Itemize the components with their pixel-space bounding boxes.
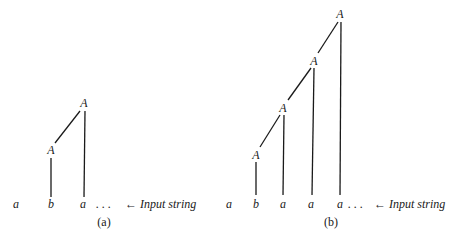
edge-b-A3-to-A4 (260, 115, 280, 147)
caption-b: (b) (324, 216, 338, 228)
leaf-a-0: a (13, 198, 19, 210)
edge-a-top-to-a (84, 111, 85, 197)
node-b-A1: A (336, 8, 343, 20)
edge-a-top-to-lowerA (55, 111, 80, 143)
edge-b-A2-to-A3 (288, 68, 311, 100)
leaf-b-1: b (253, 198, 259, 210)
edge-b-A1-to-A2 (318, 22, 338, 53)
ellipsis-a: . . . (96, 198, 111, 210)
node-a-root: A (80, 97, 87, 109)
leaf-b-4: a (337, 198, 343, 210)
edge-b-A2-to-a4 (312, 68, 314, 195)
caption-a: (a) (97, 216, 110, 228)
node-b-A2: A (310, 55, 317, 67)
input-string-annotation-b: ← Input string (374, 198, 445, 210)
node-b-A3: A (279, 102, 286, 114)
edge-b-A3-to-a3 (283, 115, 284, 195)
leaf-b-2: a (280, 198, 286, 210)
ellipsis-b: . . . (348, 198, 363, 210)
leaf-a-1: b (48, 198, 54, 210)
node-a-child: A (47, 144, 54, 156)
leaf-b-0: a (226, 198, 232, 210)
leaf-b-3: a (308, 198, 314, 210)
edge-b-A1-to-a5 (340, 22, 341, 195)
input-string-annotation-a: ← Input string (125, 198, 196, 210)
node-b-A4: A (252, 149, 259, 161)
leaf-a-2: a (80, 198, 86, 210)
